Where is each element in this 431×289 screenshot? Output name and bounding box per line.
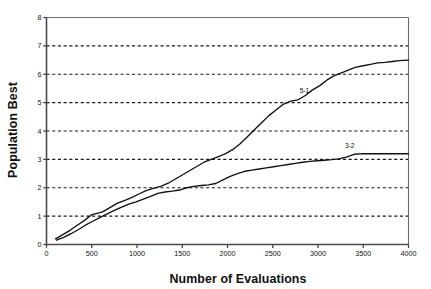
y-tick-label-2: 2 bbox=[38, 183, 42, 192]
chart-canvas: 012345678 050010001500200025003000350040… bbox=[0, 0, 431, 289]
line-chart: 012345678 050010001500200025003000350040… bbox=[0, 0, 431, 289]
y-tick-label-5: 5 bbox=[38, 98, 42, 107]
x-tick-label-2000: 2000 bbox=[220, 249, 236, 258]
data-series bbox=[56, 60, 409, 240]
y-tick-label-0: 0 bbox=[38, 240, 42, 249]
x-tick-label-2500: 2500 bbox=[265, 249, 281, 258]
x-tick-label-0: 0 bbox=[45, 249, 49, 258]
series-label-3-2: 3-2 bbox=[345, 142, 355, 149]
x-tick-label-3500: 3500 bbox=[355, 249, 371, 258]
series-line-3-2 bbox=[56, 154, 408, 241]
x-tick-label-4000: 4000 bbox=[401, 249, 417, 258]
y-axis: 012345678 bbox=[38, 13, 47, 249]
y-axis-title: Population Best bbox=[6, 82, 20, 178]
x-tick-label-3000: 3000 bbox=[310, 249, 326, 258]
y-tick-label-7: 7 bbox=[38, 41, 42, 50]
x-axis-title: Number of Evaluations bbox=[169, 272, 306, 286]
x-tick-label-500: 500 bbox=[86, 249, 98, 258]
x-tick-label-1500: 1500 bbox=[174, 249, 190, 258]
x-axis: 05001000150020002500300035004000 bbox=[45, 245, 417, 259]
y-tick-label-6: 6 bbox=[38, 70, 42, 79]
y-tick-label-3: 3 bbox=[38, 155, 42, 164]
y-tick-label-1: 1 bbox=[38, 212, 42, 221]
series-annotations: 5-13-2 bbox=[300, 87, 355, 149]
x-tick-label-1000: 1000 bbox=[129, 249, 145, 258]
series-line-5-1 bbox=[56, 60, 409, 239]
gridlines bbox=[47, 46, 409, 216]
y-tick-label-4: 4 bbox=[38, 127, 42, 136]
y-tick-label-8: 8 bbox=[38, 13, 42, 22]
series-label-5-1: 5-1 bbox=[300, 87, 310, 94]
